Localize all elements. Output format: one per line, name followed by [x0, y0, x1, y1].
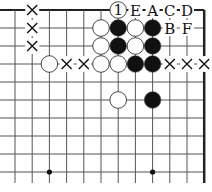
white-stone: [110, 92, 127, 109]
white-stone: [127, 20, 144, 37]
white-stone: [41, 56, 58, 73]
white-stone: [110, 56, 127, 73]
white-stone: [127, 38, 144, 55]
star-point: [47, 169, 52, 174]
point-label-a: A: [146, 2, 158, 20]
black-stone: [144, 92, 161, 109]
white-stone: [93, 20, 110, 37]
star-point: [150, 169, 155, 174]
point-label-d: D: [181, 2, 193, 20]
point-label-c: C: [164, 2, 175, 20]
point-label-f: F: [182, 20, 192, 38]
black-stone: [110, 20, 127, 37]
black-stone: [127, 56, 144, 73]
black-stone: [144, 38, 161, 55]
black-stone: [144, 56, 161, 73]
white-stone: [93, 56, 110, 73]
white-stone: [93, 38, 110, 55]
go-board: 1 EACDBF: [0, 0, 212, 192]
point-label-b: B: [164, 20, 175, 38]
point-label-e: E: [130, 2, 141, 20]
black-stone: [144, 20, 161, 37]
move-number-label: 1: [113, 1, 123, 19]
black-stone: [110, 38, 127, 55]
